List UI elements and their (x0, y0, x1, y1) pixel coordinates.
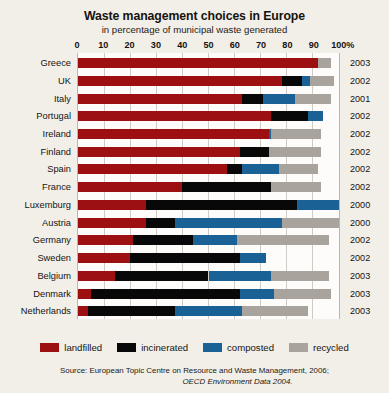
chart-figure: Waste management choices in Europe in pe… (0, 0, 389, 393)
x-tick-40: 40 (177, 39, 187, 52)
table-row (78, 271, 339, 281)
country-label-ireland: Ireland (43, 130, 71, 139)
year-labels-column: 2003200220012002200220022002200220002000… (344, 53, 389, 319)
country-label-belgium: Belgium (37, 272, 71, 281)
table-row (78, 253, 339, 263)
chart-legend: landfilledincineratedcompostedrecycled (0, 343, 389, 353)
country-label-portugal: Portugal (36, 112, 71, 121)
bar-segment-composted (209, 271, 272, 281)
table-row (78, 182, 339, 192)
bar-segment-composted (302, 76, 310, 86)
year-label-luxemburg: 2000 (350, 201, 370, 210)
bar-segment-landfilled (78, 111, 271, 121)
table-row (78, 235, 339, 245)
year-label-denmark: 2003 (350, 290, 370, 299)
x-tick-20: 20 (125, 39, 135, 52)
source-line-1: Source: European Topic Centre on Resourc… (60, 366, 329, 375)
bar-segment-recycled (310, 76, 333, 86)
bar-segment-recycled (271, 182, 321, 192)
bar-segment-composted (193, 235, 237, 245)
bar-segment-landfilled (78, 164, 227, 174)
legend-item-landfilled: landfilled (40, 343, 102, 353)
x-tick-80: 80 (282, 39, 292, 52)
bar-segment-incinerated (91, 289, 240, 299)
table-row (78, 111, 339, 121)
legend-label-incinerated: incinerated (141, 343, 188, 353)
source-note: Source: European Topic Centre on Resourc… (0, 366, 389, 387)
year-label-uk: 2002 (350, 77, 370, 86)
x-tick-70: 70 (256, 39, 266, 52)
bar-segment-recycled (282, 218, 339, 228)
bar-segment-recycled (271, 129, 321, 139)
table-row (78, 218, 339, 228)
country-label-finland: Finland (41, 148, 72, 157)
table-row (78, 200, 339, 210)
bar-segment-landfilled (78, 147, 240, 157)
chart-subtitle: in percentage of municipal waste generat… (0, 24, 389, 35)
bar-segment-incinerated (146, 218, 175, 228)
x-axis-tick-labels: 0102030405060708090100% (0, 39, 389, 52)
bar-segment-landfilled (78, 271, 115, 281)
legend-swatch-landfilled (40, 343, 59, 352)
bar-segment-composted (308, 111, 324, 121)
legend-item-incinerated: incinerated (117, 343, 188, 353)
legend-label-recycled: recycled (313, 343, 349, 353)
bar-segment-incinerated (146, 200, 297, 210)
plot-wrapper: 0102030405060708090100% GreeceUKItalyPor… (0, 39, 389, 325)
bar-segment-landfilled (78, 289, 91, 299)
bar-segment-recycled (269, 147, 321, 157)
bar-segment-recycled (295, 94, 332, 104)
country-label-spain: Spain (47, 165, 71, 174)
bar-segment-incinerated (271, 111, 308, 121)
x-tick-50: 50 (203, 39, 213, 52)
country-label-uk: UK (58, 77, 71, 86)
year-label-sweden: 2002 (350, 254, 370, 263)
bar-segment-recycled (242, 306, 307, 316)
plot-area (77, 53, 340, 319)
x-tick-0: 0 (74, 39, 79, 52)
bar-segment-recycled (274, 289, 331, 299)
table-row (78, 129, 339, 139)
country-label-germany: Germany (33, 236, 71, 245)
x-tick-30: 30 (151, 39, 161, 52)
bar-segment-incinerated (227, 164, 243, 174)
bar-segment-composted (297, 200, 339, 210)
table-row (78, 289, 339, 299)
bar-segment-recycled (318, 58, 331, 68)
year-label-italy: 2001 (350, 95, 370, 104)
country-labels-column: GreeceUKItalyPortugalIrelandFinlandSpain… (0, 53, 74, 319)
country-label-sweden: Sweden (37, 254, 71, 263)
bar-segment-composted (240, 289, 274, 299)
bar-segment-landfilled (78, 129, 269, 139)
country-label-france: France (42, 183, 71, 192)
bar-segment-incinerated (282, 76, 303, 86)
legend-swatch-incinerated (117, 343, 136, 352)
bar-segment-landfilled (78, 235, 133, 245)
bar-segment-landfilled (78, 94, 242, 104)
bar-segment-incinerated (133, 235, 193, 245)
bar-segment-landfilled (78, 200, 146, 210)
year-label-ireland: 2002 (350, 130, 370, 139)
year-label-spain: 2002 (350, 165, 370, 174)
year-label-portugal: 2002 (350, 112, 370, 121)
bar-segment-incinerated (240, 147, 269, 157)
legend-item-recycled: recycled (289, 343, 349, 353)
year-label-germany: 2002 (350, 236, 370, 245)
country-label-italy: Italy (54, 95, 71, 104)
country-label-luxemburg: Luxemburg (24, 201, 71, 210)
bar-segment-composted (263, 94, 294, 104)
bar-segment-composted (240, 253, 266, 263)
bar-segment-incinerated (115, 271, 209, 281)
bar-segment-composted (175, 306, 243, 316)
bar-segment-recycled (279, 164, 318, 174)
bar-segment-recycled (237, 235, 328, 245)
legend-label-composted: composted (227, 343, 274, 353)
bar-segment-landfilled (78, 253, 130, 263)
year-label-austria: 2000 (350, 219, 370, 228)
country-label-austria: Austria (42, 219, 71, 228)
country-label-greece: Greece (41, 59, 72, 68)
table-row (78, 76, 339, 86)
bar-segment-composted (175, 218, 282, 228)
year-label-greece: 2003 (350, 59, 370, 68)
bar-segment-landfilled (78, 182, 182, 192)
